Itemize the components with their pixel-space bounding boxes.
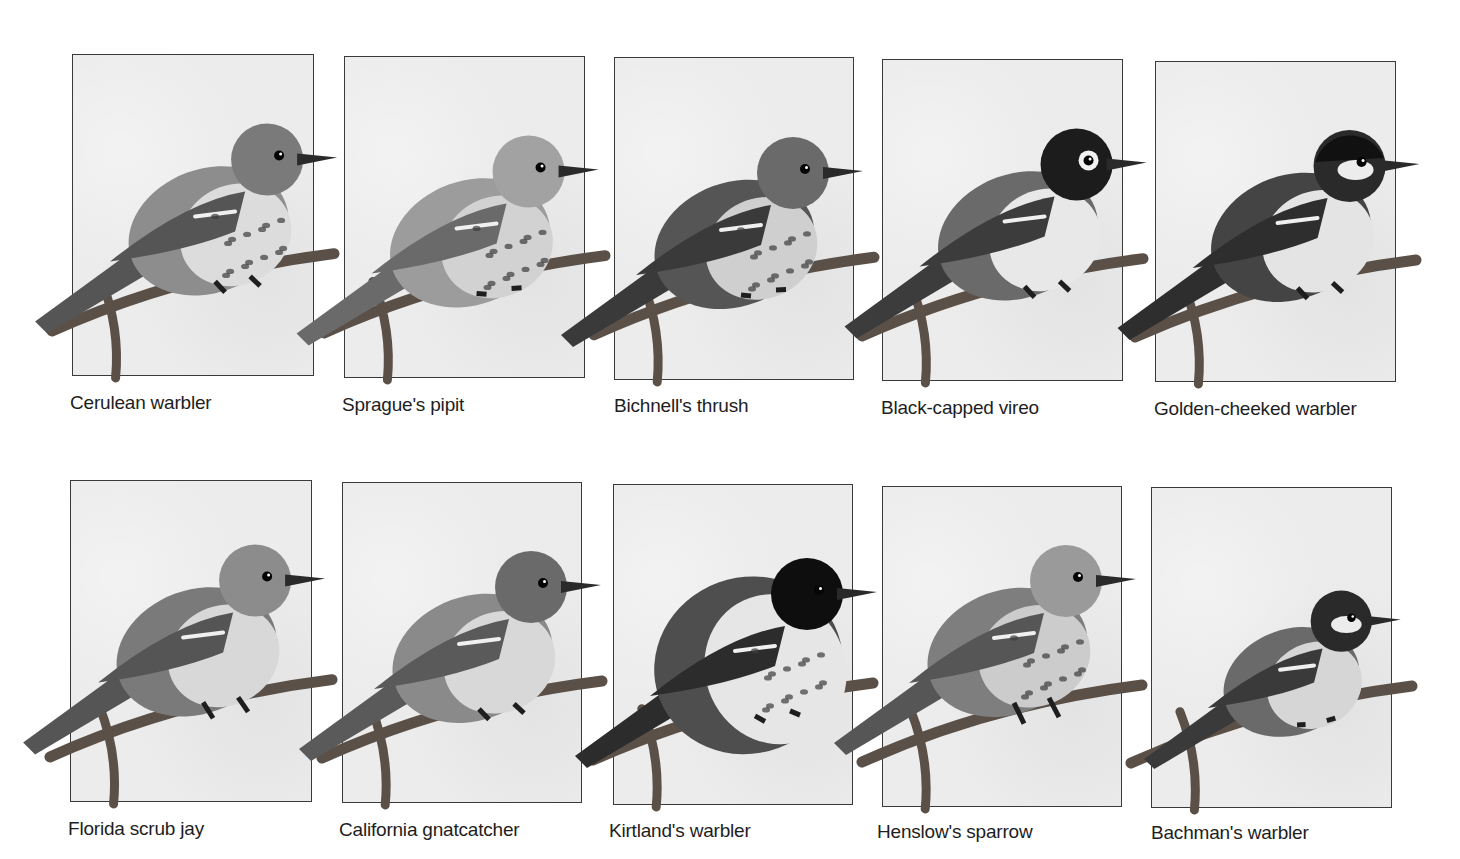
illustration-frame <box>344 56 585 378</box>
illustration-frame <box>70 480 312 802</box>
bird-caption: California gnatcatcher <box>339 819 519 841</box>
illustration-frame <box>882 486 1122 807</box>
illustration-frame <box>1155 61 1396 382</box>
illustration-frame <box>72 54 314 376</box>
bird-caption: Kirtland's warbler <box>609 820 751 842</box>
illustration-frame <box>1151 487 1392 808</box>
illustration-frame <box>342 482 582 803</box>
bird-caption: Black-capped vireo <box>881 397 1039 419</box>
bird-caption: Henslow's sparrow <box>877 821 1032 843</box>
bird-caption: Florida scrub jay <box>68 818 204 840</box>
bird-caption: Bachman's warbler <box>1151 822 1309 844</box>
bird-caption: Bichnell's thrush <box>614 395 748 417</box>
bird-caption: Sprague's pipit <box>342 394 464 416</box>
illustration-frame <box>613 484 853 805</box>
bird-caption: Golden-cheeked warbler <box>1154 398 1357 420</box>
illustration-frame <box>614 57 854 380</box>
illustration-frame <box>882 59 1123 381</box>
bird-caption: Cerulean warbler <box>70 392 211 414</box>
